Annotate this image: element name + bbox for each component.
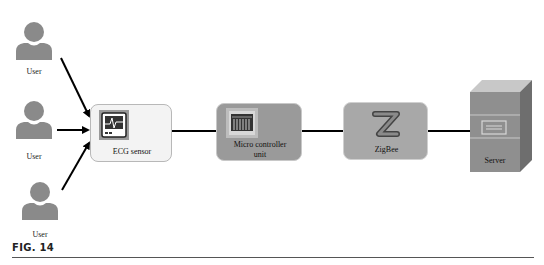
arrow-user3-to-ecg xyxy=(62,143,89,190)
arrow-user1-to-ecg xyxy=(61,58,89,116)
user-label-3: User xyxy=(20,230,60,239)
microcontroller-label-line1: Micro controller xyxy=(217,140,303,150)
user-icon xyxy=(14,99,54,139)
microcontroller-node: Micro controller unit xyxy=(216,103,302,161)
user-label-2: User xyxy=(14,152,54,161)
zigbee-node: ZigBee xyxy=(343,102,428,160)
user-figure-2 xyxy=(14,99,54,139)
server-node: Server xyxy=(470,80,532,172)
user-icon xyxy=(20,180,60,220)
caption-rule xyxy=(12,257,534,258)
zigbee-label: ZigBee xyxy=(344,145,429,155)
server-label: Server xyxy=(470,156,520,166)
ecg-monitor-icon xyxy=(99,110,129,140)
user-figure-3 xyxy=(20,180,60,220)
microcontroller-label-line2: unit xyxy=(217,150,303,160)
zigbee-z-icon xyxy=(371,109,401,139)
figure-label: FIG. 14 xyxy=(12,242,54,253)
user-label-1: User xyxy=(14,67,54,76)
circuit-board-icon xyxy=(226,108,258,138)
ecg-sensor-node: ECG sensor xyxy=(90,104,172,162)
user-figure-1 xyxy=(14,20,54,60)
ecg-sensor-label: ECG sensor xyxy=(91,147,173,157)
user-icon xyxy=(14,20,54,60)
